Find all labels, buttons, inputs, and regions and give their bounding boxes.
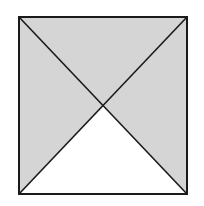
square-diagonals-figure (0, 0, 204, 206)
